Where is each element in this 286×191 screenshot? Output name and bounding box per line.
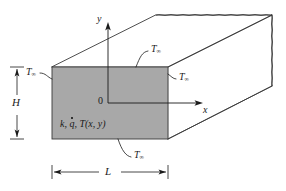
leader-line-bottom [118,139,131,157]
figure-container: T∞ T∞ T∞ T∞ y x 0 H L k, q, T(x, y) [0,0,286,191]
diagram-canvas [0,0,286,191]
boundary-label-left: T∞ [26,67,36,77]
boundary-label-right: T∞ [179,72,189,82]
boundary-label-right-subscript: ∞ [185,75,189,82]
conductivity-symbol: k [60,118,64,129]
leader-line-right [168,74,176,79]
y-axis-label: y [97,14,101,24]
boundary-label-left-subscript: ∞ [32,70,36,77]
temperature-field-symbol: T(x, y) [79,118,105,129]
leader-line-left [40,73,52,79]
origin-label: 0 [98,96,103,106]
boundary-label-top-subscript: ∞ [157,47,161,54]
boundary-label-bottom-subscript: ∞ [140,153,144,160]
material-properties-label: k, q, T(x, y) [60,119,106,129]
height-dimension-label: H [12,97,20,108]
boundary-label-top: T∞ [151,44,161,54]
length-dimension-label: L [105,166,111,177]
heat-generation-symbol: q [69,119,74,129]
prism-top-face [52,15,272,67]
leader-line-top [136,51,148,67]
x-axis-label: x [203,105,207,115]
boundary-label-bottom: T∞ [134,150,144,160]
prism-bottom-receding-edge [168,86,272,139]
